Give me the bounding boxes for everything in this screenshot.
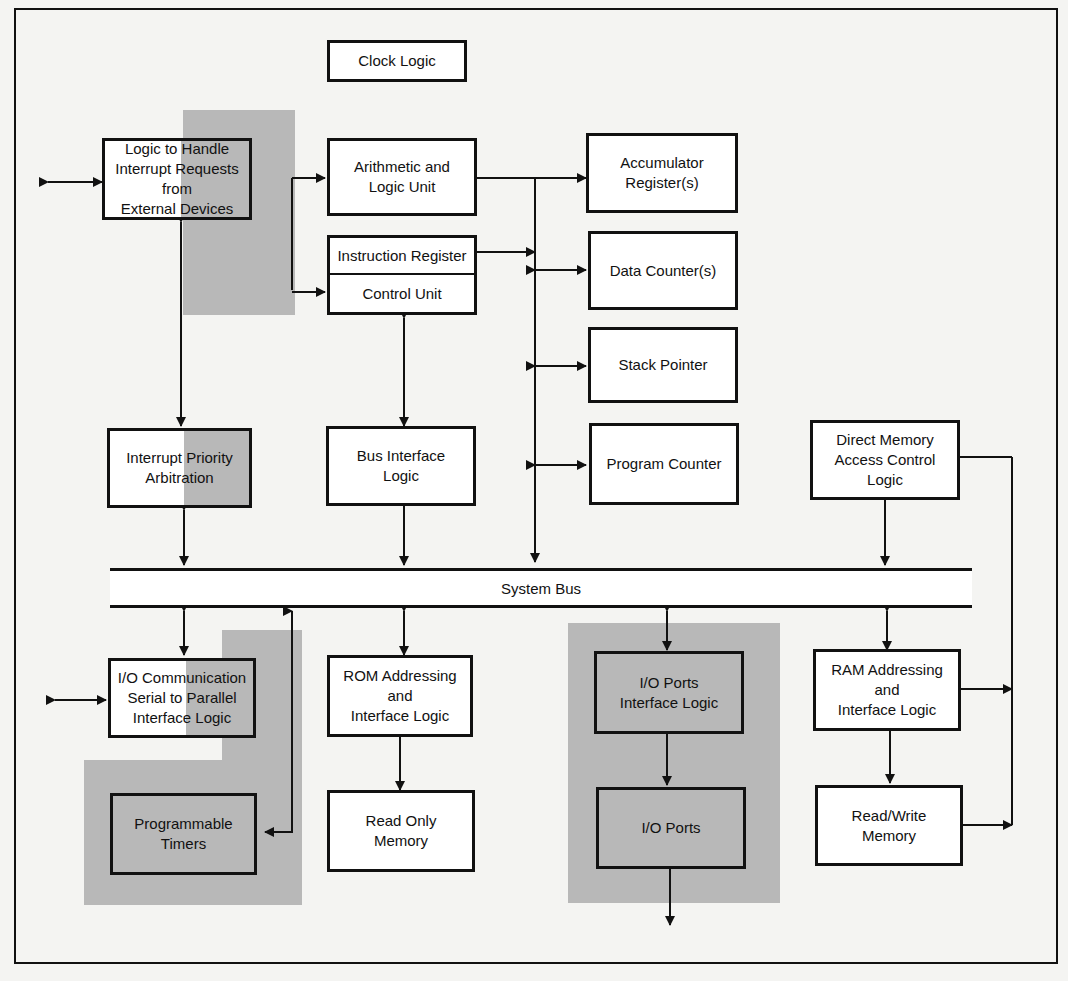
block-dma-control: Direct Memory Access Control Logic: [810, 420, 960, 500]
block-data-counter: Data Counter(s): [588, 231, 738, 310]
block-io-communication: I/O Communication Serial to Parallel Int…: [108, 658, 256, 738]
block-ram-addressing: RAM Addressing and Interface Logic: [813, 649, 961, 731]
block-io-ports-interface: I/O Ports Interface Logic: [594, 651, 744, 734]
block-read-only-memory: Read Only Memory: [327, 790, 475, 872]
block-program-counter: Program Counter: [589, 423, 739, 505]
block-programmable-timers: Programmable Timers: [110, 793, 257, 875]
block-read-write-memory: Read/Write Memory: [815, 785, 963, 866]
block-stack-pointer: Stack Pointer: [588, 327, 738, 403]
block-accumulator: Accumulator Register(s): [586, 133, 738, 213]
control-unit-label: Control Unit: [330, 275, 474, 312]
block-bus-interface: Bus Interface Logic: [326, 426, 476, 506]
block-io-ports: I/O Ports: [596, 787, 746, 869]
instruction-register-label: Instruction Register: [330, 238, 474, 275]
block-instruction-control: Instruction Register Control Unit: [327, 235, 477, 315]
block-clock-logic: Clock Logic: [327, 40, 467, 82]
block-interrupt-priority: Interrupt Priority Arbitration: [107, 428, 252, 508]
block-alu: Arithmetic and Logic Unit: [327, 138, 477, 216]
system-bus: System Bus: [110, 568, 972, 608]
block-rom-addressing: ROM Addressing and Interface Logic: [327, 655, 473, 737]
block-interrupt-request-logic: Logic to Handle Interrupt Requests from …: [102, 138, 252, 220]
